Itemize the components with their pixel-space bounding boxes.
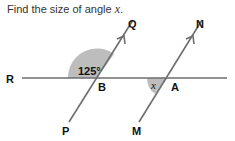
angle-x-label: x [150, 79, 156, 91]
label-m: M [132, 125, 141, 137]
angle-125-label: 125° [78, 65, 101, 77]
label-r: R [6, 73, 14, 85]
geometry-diagram: R B A Q N P M 125° x [0, 0, 235, 141]
label-p: P [62, 125, 69, 137]
label-b: B [98, 81, 106, 93]
label-a: A [171, 81, 179, 93]
label-n: N [196, 18, 204, 30]
label-q: Q [128, 18, 137, 30]
line-mn [139, 20, 202, 122]
